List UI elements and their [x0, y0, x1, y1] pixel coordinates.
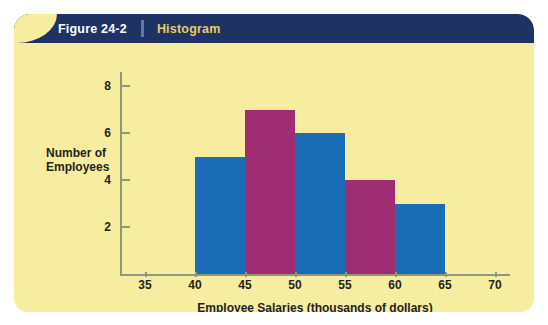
- histogram-bar: [195, 157, 245, 274]
- x-axis-tick-label: 60: [388, 278, 401, 292]
- banner-notch-shape: [14, 14, 57, 43]
- y-axis-tick-mark: [122, 132, 130, 134]
- y-axis-title: Number of Employees: [46, 146, 116, 174]
- x-axis-tick-label: 40: [188, 278, 201, 292]
- figure-kind-label: Histogram: [157, 22, 221, 36]
- y-axis-tick-label: 2: [104, 220, 111, 234]
- x-axis-tick-mark: [445, 272, 447, 277]
- figure-card: Figure 24-2 Histogram Number of Employee…: [14, 14, 534, 312]
- y-axis-tick-label: 4: [104, 173, 111, 187]
- x-axis-title: Employee Salaries (thousands of dollars): [120, 301, 510, 312]
- plot-area: 2468 3540455055606570: [120, 72, 510, 276]
- histogram-bar: [245, 110, 295, 274]
- y-axis-tick-mark: [122, 226, 130, 228]
- x-axis-tick-label: 50: [288, 278, 301, 292]
- histogram-bar: [295, 133, 345, 274]
- x-axis-tick-mark: [495, 272, 497, 277]
- x-axis-tick-mark: [295, 272, 297, 277]
- y-axis-tick-mark: [122, 179, 130, 181]
- x-axis-line: [120, 274, 510, 276]
- y-axis-line: [120, 72, 122, 276]
- y-axis-tick-mark: [122, 85, 130, 87]
- figure-number-label: Figure 24-2: [58, 22, 127, 36]
- figure-banner: Figure 24-2 Histogram: [14, 14, 534, 43]
- x-axis-tick-label: 70: [488, 278, 501, 292]
- x-axis-tick-mark: [345, 272, 347, 277]
- histogram-bar: [345, 180, 395, 274]
- y-axis-tick-label: 6: [104, 126, 111, 140]
- x-axis-tick-mark: [245, 272, 247, 277]
- y-axis-tick-label: 8: [104, 79, 111, 93]
- x-axis-tick-label: 55: [338, 278, 351, 292]
- x-axis-tick-mark: [195, 272, 197, 277]
- x-axis-tick-mark: [145, 272, 147, 277]
- x-axis-tick-label: 35: [138, 278, 151, 292]
- x-axis-tick-label: 65: [438, 278, 451, 292]
- x-axis-tick-mark: [395, 272, 397, 277]
- x-axis-tick-label: 45: [238, 278, 251, 292]
- histogram-bar: [395, 204, 445, 274]
- y-axis-title-line-1: Number of: [46, 146, 116, 160]
- y-axis-title-line-2: Employees: [46, 160, 116, 174]
- histogram-chart: Number of Employees 2468 354045505560657…: [14, 43, 534, 312]
- banner-content: Figure 24-2 Histogram: [58, 14, 221, 43]
- banner-divider: [141, 20, 144, 37]
